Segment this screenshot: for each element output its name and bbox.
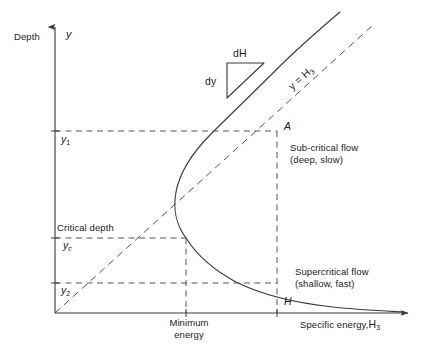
supercritical-flow-line1: Supercritical flow <box>295 266 369 278</box>
point-h-label: H <box>284 296 292 308</box>
subcritical-flow-annotation: Sub-critical flow (deep, slow) <box>290 142 358 165</box>
depth-label-yc: yc <box>63 240 72 255</box>
depth-label-y1: y1 <box>61 134 70 149</box>
point-a-label: A <box>284 121 291 133</box>
depth-label-y1-subscript: 1 <box>66 139 70 146</box>
triangle-label-dh: ddHH <box>233 48 247 60</box>
y-axis-symbol: y <box>66 29 72 41</box>
curve-subcritical-branch <box>175 12 340 238</box>
y-axis-caption: Depth <box>14 31 40 43</box>
specific-energy-diagram: Depth y Specific energy,H3 y1 Critical d… <box>0 0 423 347</box>
depth-label-y2-subscript: 2 <box>66 290 70 297</box>
minimum-energy-line2: energy <box>160 329 218 341</box>
minimum-energy-label: Minimum energy <box>160 317 218 340</box>
supercritical-flow-line2: (shallow, fast) <box>295 278 369 290</box>
minimum-energy-line1: Minimum <box>160 317 218 329</box>
triangle-label-dy: ddyy <box>205 76 216 88</box>
slope-triangle <box>227 63 264 98</box>
critical-depth-label: Critical depth <box>57 222 114 234</box>
x-axis-label: Specific energy,H3 <box>300 319 380 334</box>
subcritical-flow-line2: (deep, slow) <box>290 154 358 166</box>
x-axis-label-text: Specific energy, <box>300 319 369 330</box>
subcritical-flow-line1: Sub-critical flow <box>290 142 358 154</box>
supercritical-flow-annotation: Supercritical flow (shallow, fast) <box>295 266 369 289</box>
depth-label-y2: y2 <box>61 285 70 300</box>
x-axis-symbol-subscript: 3 <box>376 324 380 331</box>
depth-label-yc-subscript: c <box>68 245 72 252</box>
